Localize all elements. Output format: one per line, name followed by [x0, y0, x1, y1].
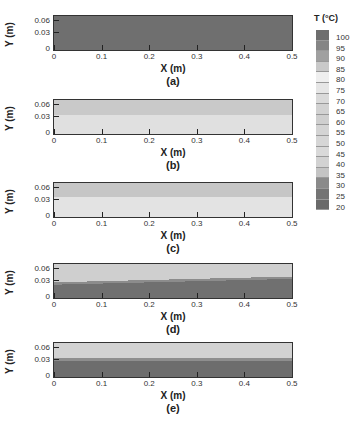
panel-b: Y (m)0.060.03000.10.20.30.40.5X (m)(b)	[0, 89, 300, 173]
x-tick-mark	[292, 293, 293, 298]
x-tick-mark	[197, 372, 198, 377]
x-tick-label: 0.1	[96, 52, 107, 61]
y-tick-mark	[54, 268, 59, 269]
x-tick-mark	[149, 45, 150, 50]
colorbar-band	[316, 94, 329, 105]
y-tick-label: 0.03	[26, 28, 50, 37]
contour-plot	[53, 15, 293, 51]
colorbar-band	[316, 51, 329, 62]
colorbar-band	[316, 41, 329, 52]
y-tick-mark	[54, 347, 59, 348]
colorbar-tick-label: 40	[336, 160, 345, 169]
y-tick-label: 0.03	[26, 355, 50, 364]
x-tick-label: 0.4	[239, 136, 250, 145]
x-tick-mark	[54, 212, 55, 217]
x-tick-mark	[102, 45, 103, 50]
x-tick-label: 0	[52, 379, 56, 388]
colorbar-tick-label: 50	[336, 139, 345, 148]
y-tick-label: 0.06	[26, 343, 50, 352]
x-tick-mark	[292, 129, 293, 134]
colorbar-tick-label: 70	[336, 97, 345, 106]
colorbar-band	[316, 136, 329, 147]
x-tick-mark	[54, 293, 55, 298]
y-tick-mark	[54, 32, 59, 33]
x-tick-label: 0.4	[239, 300, 250, 309]
y-tick-label: 0.06	[26, 100, 50, 109]
colorbar	[316, 30, 329, 210]
contour-plot	[53, 342, 293, 378]
y-tick-mark	[54, 187, 59, 188]
y-tick-label: 0	[26, 44, 50, 53]
y-tick-mark	[54, 280, 59, 281]
x-tick-mark	[54, 372, 55, 377]
x-tick-label: 0.2	[144, 300, 155, 309]
x-tick-label: 0	[52, 136, 56, 145]
colorbar-tick-label: 75	[336, 86, 345, 95]
y-tick-label: 0.03	[26, 112, 50, 121]
contour-plot	[53, 99, 293, 135]
x-tick-mark	[197, 293, 198, 298]
colorbar-tick-label: 65	[336, 107, 345, 116]
y-tick-mark	[54, 20, 59, 21]
x-tick-mark	[149, 212, 150, 217]
y-axis-label: Y (m)	[4, 270, 15, 295]
x-axis-label: X (m)	[161, 230, 186, 241]
x-tick-label: 0.2	[144, 136, 155, 145]
colorbar-band	[316, 104, 329, 115]
y-tick-mark	[54, 359, 59, 360]
x-tick-mark	[197, 212, 198, 217]
y-tick-label: 0.06	[26, 16, 50, 25]
y-tick-mark	[54, 199, 59, 200]
x-tick-label: 0.3	[191, 379, 202, 388]
x-tick-label: 0.5	[286, 219, 297, 228]
colorbar-tick-label: 85	[336, 65, 345, 74]
x-tick-mark	[149, 372, 150, 377]
x-axis-label: X (m)	[161, 147, 186, 158]
y-axis-label: Y (m)	[4, 106, 15, 131]
colorbar-tick-label: 100	[336, 33, 349, 42]
y-tick-label: 0.03	[26, 195, 50, 204]
colorbar-tick-label: 45	[336, 150, 345, 159]
x-axis-label: X (m)	[161, 63, 186, 74]
panel-c: Y (m)0.060.03000.10.20.30.40.5X (m)(c)	[0, 172, 300, 256]
colorbar-band	[316, 157, 329, 168]
x-tick-mark	[54, 45, 55, 50]
x-tick-label: 0.5	[286, 136, 297, 145]
x-tick-label: 0.1	[96, 136, 107, 145]
x-tick-mark	[244, 129, 245, 134]
x-axis-label: X (m)	[161, 311, 186, 322]
x-axis-label: X (m)	[161, 390, 186, 401]
y-tick-label: 0	[26, 128, 50, 137]
x-tick-mark	[292, 212, 293, 217]
y-tick-label: 0.03	[26, 276, 50, 285]
x-tick-label: 0.1	[96, 300, 107, 309]
contour-plot	[53, 182, 293, 218]
y-tick-mark	[54, 104, 59, 105]
colorbar-tick-label: 55	[336, 128, 345, 137]
x-tick-mark	[244, 293, 245, 298]
panel-caption: (e)	[166, 402, 179, 414]
x-tick-mark	[292, 372, 293, 377]
colorbar-band	[316, 62, 329, 73]
y-tick-label: 0.06	[26, 264, 50, 273]
panel-e: Y (m)0.060.03000.10.20.30.40.5X (m)(e)	[0, 332, 300, 416]
colorbar-band	[316, 178, 329, 189]
x-tick-label: 0.1	[96, 379, 107, 388]
contour-plot	[53, 263, 293, 299]
colorbar-band	[316, 168, 329, 179]
x-tick-label: 0.4	[239, 379, 250, 388]
y-tick-mark	[54, 116, 59, 117]
x-tick-mark	[244, 45, 245, 50]
x-tick-label: 0.2	[144, 379, 155, 388]
colorbar-band	[316, 72, 329, 83]
x-tick-label: 0	[52, 52, 56, 61]
x-tick-mark	[292, 45, 293, 50]
colorbar-tick-label: 30	[336, 181, 345, 190]
y-tick-label: 0	[26, 211, 50, 220]
x-tick-mark	[102, 293, 103, 298]
colorbar-band	[316, 125, 329, 136]
colorbar-band	[316, 200, 329, 211]
x-tick-label: 0.3	[191, 52, 202, 61]
x-tick-label: 0.5	[286, 52, 297, 61]
x-tick-mark	[102, 129, 103, 134]
